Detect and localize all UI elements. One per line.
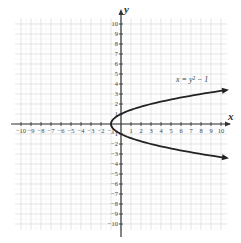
x-axis-arrow-icon <box>225 122 231 127</box>
x-tick-label: 4 <box>159 127 163 134</box>
y-tick-label: 2 <box>115 100 118 107</box>
y-tick-label: 5 <box>115 70 118 77</box>
x-tick-label: −9 <box>28 127 35 134</box>
y-axis-label: y <box>122 3 129 15</box>
y-tick-label: −3 <box>111 150 118 157</box>
axes <box>11 9 231 237</box>
y-tick-label: −9 <box>111 210 118 217</box>
x-tick-label: 6 <box>179 127 183 134</box>
y-tick-label: −8 <box>111 200 118 207</box>
y-tick-label: −7 <box>111 190 119 197</box>
y-tick-label: −2 <box>111 140 118 147</box>
parabola-chart: −10−9−8−7−6−5−4−3−2−112345678910−10−9−8−… <box>0 0 241 243</box>
x-tick-label: −10 <box>16 127 26 134</box>
x-axis-label: x <box>227 110 234 122</box>
y-tick-label: 9 <box>115 30 118 37</box>
curve-equation-label: x = y² − 1 <box>175 75 208 84</box>
y-axis-arrow-icon <box>119 9 124 15</box>
y-tick-label: 3 <box>115 90 118 97</box>
curve-arrow-top-icon <box>222 88 229 94</box>
x-tick-label: −7 <box>48 127 56 134</box>
x-tick-label: −6 <box>58 127 66 134</box>
x-tick-label: −4 <box>78 127 86 134</box>
x-tick-label: 7 <box>189 127 193 134</box>
x-tick-label: −8 <box>38 127 45 134</box>
x-tick-label: 1 <box>129 127 132 134</box>
y-tick-label: −5 <box>111 170 118 177</box>
x-tick-label: −2 <box>98 127 105 134</box>
y-tick-label: −10 <box>108 220 118 227</box>
x-tick-label: 9 <box>209 127 212 134</box>
curve-arrow-bottom-icon <box>222 154 229 160</box>
x-tick-label: −5 <box>68 127 75 134</box>
y-tick-label: 10 <box>112 20 119 27</box>
y-tick-label: −6 <box>111 180 119 187</box>
x-tick-label: 8 <box>199 127 202 134</box>
y-tick-label: 8 <box>115 40 118 47</box>
x-tick-label: 10 <box>218 127 225 134</box>
x-tick-label: 2 <box>139 127 142 134</box>
x-tick-label: 3 <box>149 127 152 134</box>
x-tick-label: 5 <box>169 127 172 134</box>
x-tick-label: −3 <box>88 127 95 134</box>
y-tick-label: −4 <box>111 160 119 167</box>
